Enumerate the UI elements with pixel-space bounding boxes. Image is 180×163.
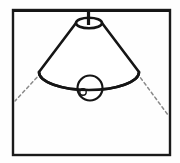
pendant-lamp-illustration [0, 0, 180, 163]
figure-container: Line drawing of a pendant ceiling lamp w… [0, 0, 180, 163]
light-bulb [78, 76, 103, 101]
